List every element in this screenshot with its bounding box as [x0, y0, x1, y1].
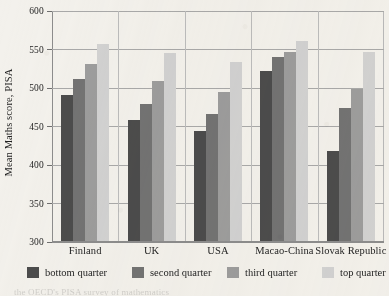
bar [164, 53, 176, 241]
y-tick-label-550: 550 [29, 45, 44, 55]
bar [152, 81, 164, 241]
group-divider [118, 11, 119, 241]
legend-label: bottom quarter [45, 267, 107, 278]
category-label-slovak-republic: Slovak Republic [315, 245, 386, 256]
bar-group [185, 11, 251, 241]
bar [128, 120, 140, 241]
bar [351, 89, 363, 241]
group-divider [251, 11, 252, 241]
bar [296, 41, 308, 241]
legend-label: second quarter [150, 267, 212, 278]
group-divider [185, 11, 186, 241]
category-axis: FinlandUKUSAMacao-ChinaSlovak Republic [52, 245, 384, 261]
bar [363, 52, 375, 241]
bar [97, 44, 109, 241]
bar [284, 52, 296, 241]
legend-swatch [322, 267, 334, 278]
legend-swatch [227, 267, 239, 278]
bar [327, 151, 339, 241]
legend-item-bottom-quarter[interactable]: bottom quarter [27, 265, 107, 279]
legend-swatch [27, 267, 39, 278]
bar-chart: Mean Maths score, PISA 30035040045050055… [0, 0, 389, 296]
chart-legend: bottom quartersecond quarterthird quarte… [27, 265, 367, 281]
category-label-usa: USA [207, 245, 228, 256]
bar [218, 92, 230, 241]
bar [61, 95, 73, 241]
y-tick-label-600: 600 [29, 6, 44, 16]
y-tick-label-450: 450 [29, 122, 44, 132]
legend-swatch [132, 267, 144, 278]
category-label-uk: UK [144, 245, 159, 256]
y-axis-title: Mean Maths score, PISA [0, 0, 18, 244]
bar [230, 62, 242, 241]
y-tick-label-400: 400 [29, 160, 44, 170]
plot-area: 300350400450500550600 [52, 11, 384, 242]
y-tick-label-500: 500 [29, 83, 44, 93]
legend-item-top-quarter[interactable]: top quarter [322, 265, 386, 279]
bar [140, 104, 152, 241]
group-divider [318, 11, 319, 241]
bar [339, 108, 351, 241]
y-tick-label-300: 300 [29, 237, 44, 247]
bar-group [52, 11, 118, 241]
bar [85, 64, 97, 241]
y-axis-title-text: Mean Maths score, PISA [4, 68, 15, 176]
category-label-finland: Finland [69, 245, 102, 256]
bars-layer [52, 11, 384, 242]
bar-group [251, 11, 317, 241]
legend-label: top quarter [340, 267, 386, 278]
legend-item-second-quarter[interactable]: second quarter [132, 265, 212, 279]
legend-item-third-quarter[interactable]: third quarter [227, 265, 297, 279]
bar [194, 131, 206, 241]
y-tick-label-350: 350 [29, 199, 44, 209]
bar [73, 79, 85, 241]
bar [260, 71, 272, 241]
bar [272, 57, 284, 241]
bar-group [118, 11, 184, 241]
footnote-cutoff-text: the OECD's PISA survey of mathematics [14, 287, 169, 296]
category-label-macao-china: Macao-China [255, 245, 313, 256]
bar-group [318, 11, 384, 241]
legend-label: third quarter [245, 267, 297, 278]
bar [206, 114, 218, 241]
